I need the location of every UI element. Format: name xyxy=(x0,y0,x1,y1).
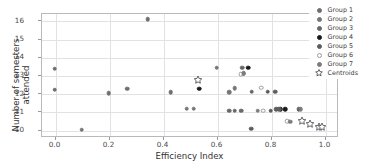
data-point xyxy=(214,65,219,70)
y-tick-mark xyxy=(38,20,41,21)
legend-label: Group 4 xyxy=(327,34,353,40)
legend-swatch xyxy=(317,53,322,58)
gridline-horizontal xyxy=(42,21,337,22)
legend-label: Group 1 xyxy=(327,7,353,13)
x-tick-label: 1.0 xyxy=(310,141,340,148)
x-tick-label: 0.8 xyxy=(256,141,286,148)
legend-item-group-4[interactable]: Group 4 xyxy=(311,33,358,41)
data-point xyxy=(249,126,254,131)
data-point xyxy=(239,108,244,113)
data-point xyxy=(298,107,303,112)
data-point xyxy=(185,106,190,111)
legend-item-centroids[interactable]: Centroids xyxy=(311,69,358,77)
legend-item-group-6[interactable]: Group 6 xyxy=(311,51,358,59)
legend-label: Group 5 xyxy=(327,43,353,49)
circle-icon xyxy=(311,53,327,58)
gridline-horizontal xyxy=(42,112,337,113)
data-point xyxy=(240,65,245,70)
data-point xyxy=(255,108,260,113)
legend-label: Group 6 xyxy=(327,52,353,58)
data-point xyxy=(52,87,57,92)
legend-swatch xyxy=(317,26,322,31)
data-point xyxy=(52,66,57,71)
data-point xyxy=(241,71,246,76)
legend-swatch xyxy=(317,44,322,49)
legend-label: Group 3 xyxy=(327,25,353,31)
data-point xyxy=(249,89,254,94)
centroid-marker xyxy=(318,123,327,132)
data-point xyxy=(168,90,173,95)
x-tick-mark xyxy=(271,137,272,140)
y-tick-mark xyxy=(38,130,41,131)
data-point xyxy=(288,119,293,124)
legend-item-group-3[interactable]: Group 3 xyxy=(311,24,358,32)
circle-icon xyxy=(311,35,327,40)
data-point xyxy=(268,108,273,113)
legend-label: Centroids xyxy=(327,70,358,76)
gridline-horizontal xyxy=(42,58,337,59)
data-point xyxy=(145,17,150,22)
x-tick-mark xyxy=(217,137,218,140)
data-point xyxy=(125,86,130,91)
data-point xyxy=(191,106,196,111)
y-tick-mark xyxy=(38,111,41,112)
x-tick-mark xyxy=(55,137,56,140)
legend-label: Group 2 xyxy=(327,16,353,22)
data-point xyxy=(227,108,232,113)
gridline-vertical xyxy=(164,14,165,136)
data-point xyxy=(261,108,266,113)
legend-item-group-2[interactable]: Group 2 xyxy=(311,15,358,23)
gridline-vertical xyxy=(110,14,111,136)
gridline-horizontal xyxy=(42,40,337,41)
y-tick-mark xyxy=(38,93,41,94)
data-point xyxy=(266,89,271,94)
y-tick-mark xyxy=(38,57,41,58)
legend-item-group-1[interactable]: Group 1 xyxy=(311,6,358,14)
y-axis-label: Number of semesters attended xyxy=(11,20,31,150)
legend-swatch xyxy=(317,35,322,40)
x-tick-mark xyxy=(109,137,110,140)
legend-swatch xyxy=(317,62,322,67)
data-point xyxy=(79,127,84,132)
y-tick-mark xyxy=(38,39,41,40)
x-tick-label: 0.6 xyxy=(202,141,232,148)
gridline-vertical xyxy=(56,14,57,136)
data-point xyxy=(233,108,238,113)
circle-icon xyxy=(311,8,327,13)
data-point xyxy=(277,107,282,112)
legend-item-group-5[interactable]: Group 5 xyxy=(311,42,358,50)
centroid-marker xyxy=(305,119,314,128)
circle-icon xyxy=(311,26,327,31)
x-tick-mark xyxy=(325,137,326,140)
data-point xyxy=(259,85,264,90)
y-tick-mark xyxy=(38,75,41,76)
data-point xyxy=(283,107,288,112)
x-axis-label: Efficiency Index xyxy=(41,151,338,161)
gridline-horizontal xyxy=(42,131,337,132)
data-point xyxy=(106,91,111,96)
data-point xyxy=(227,90,232,95)
legend-item-group-7[interactable]: Group 7 xyxy=(311,60,358,68)
chart-legend: Group 1Group 2Group 3Group 4Group 5Group… xyxy=(309,4,361,79)
centroid-marker xyxy=(194,75,203,84)
x-tick-label: 0.0 xyxy=(40,141,70,148)
x-tick-label: 0.2 xyxy=(94,141,124,148)
gridline-vertical xyxy=(218,14,219,136)
circle-icon xyxy=(311,62,327,67)
legend-swatch xyxy=(317,8,322,13)
x-tick-mark xyxy=(163,137,164,140)
star-icon xyxy=(311,69,327,77)
circle-icon xyxy=(311,17,327,22)
data-point xyxy=(273,89,278,94)
scatter-chart-figure: 101112131415160.00.20.40.60.81.0 Efficie… xyxy=(0,0,365,165)
legend-swatch xyxy=(317,17,322,22)
data-point xyxy=(233,86,238,91)
plot-area xyxy=(41,13,338,137)
data-point xyxy=(197,86,202,91)
circle-icon xyxy=(311,44,327,49)
gridline-horizontal xyxy=(42,76,337,77)
legend-label: Group 7 xyxy=(327,61,353,67)
data-point xyxy=(246,65,251,70)
gridline-horizontal xyxy=(42,94,337,95)
gridline-vertical xyxy=(272,14,273,136)
